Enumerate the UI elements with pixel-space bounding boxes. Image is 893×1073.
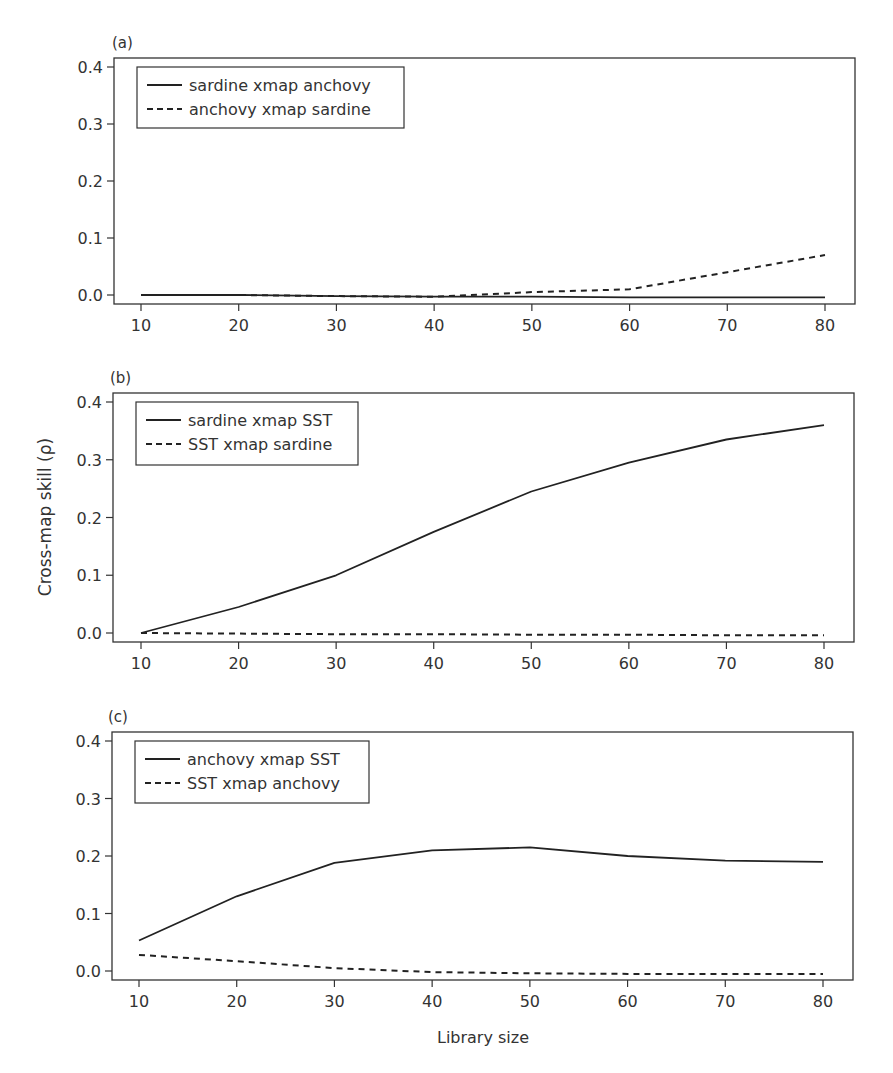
y-tick-label: 0.0: [78, 286, 103, 305]
y-tick-label: 0.1: [76, 905, 101, 924]
panel-a: (a)0.00.10.20.30.41020304050607080sardin…: [78, 34, 855, 335]
x-tick-label: 20: [229, 316, 249, 335]
x-axis-label: Library size: [437, 1028, 529, 1047]
x-tick-label: 80: [813, 992, 833, 1011]
y-tick-label: 0.3: [77, 451, 102, 470]
panel-b: (b)0.00.10.20.30.41020304050607080sardin…: [77, 369, 854, 673]
panel-c: (c)0.00.10.20.30.41020304050607080anchov…: [76, 708, 853, 1011]
y-tick-label: 0.4: [76, 732, 101, 751]
x-tick-label: 80: [814, 654, 834, 673]
y-axis-label: Cross-map skill (ρ): [35, 438, 55, 596]
series-line-dashed: [141, 255, 825, 297]
y-tick-label: 0.2: [76, 847, 101, 866]
y-tick-label: 0.4: [77, 393, 102, 412]
legend-label: SST xmap sardine: [188, 435, 332, 454]
panel-label: (c): [108, 708, 128, 726]
x-tick-label: 70: [716, 654, 736, 673]
legend-label: sardine xmap SST: [188, 411, 333, 430]
x-tick-label: 30: [326, 316, 346, 335]
x-tick-label: 40: [424, 316, 444, 335]
y-tick-label: 0.3: [78, 115, 103, 134]
x-tick-label: 60: [619, 654, 639, 673]
legend-label: anchovy xmap sardine: [189, 100, 371, 119]
x-tick-label: 60: [617, 992, 637, 1011]
x-tick-label: 60: [619, 316, 639, 335]
x-tick-label: 30: [326, 654, 346, 673]
panel-label: (b): [110, 369, 131, 387]
y-tick-label: 0.1: [77, 566, 102, 585]
y-tick-label: 0.0: [77, 624, 102, 643]
legend: anchovy xmap SSTSST xmap anchovy: [135, 741, 369, 803]
y-tick-label: 0.2: [77, 509, 102, 528]
series-line-solid: [139, 847, 823, 940]
y-tick-label: 0.2: [78, 172, 103, 191]
x-tick-label: 30: [324, 992, 344, 1011]
legend-label: sardine xmap anchovy: [189, 76, 371, 95]
y-tick-label: 0.0: [76, 962, 101, 981]
legend: sardine xmap anchovyanchovy xmap sardine: [137, 67, 404, 128]
x-tick-label: 70: [717, 316, 737, 335]
x-tick-label: 10: [131, 654, 151, 673]
series-line-dashed: [139, 955, 823, 974]
figure: (a)0.00.10.20.30.41020304050607080sardin…: [0, 0, 893, 1073]
y-tick-label: 0.3: [76, 790, 101, 809]
x-tick-label: 50: [522, 316, 542, 335]
panels: (a)0.00.10.20.30.41020304050607080sardin…: [76, 34, 855, 1011]
panel-label: (a): [112, 34, 133, 52]
x-tick-label: 70: [715, 992, 735, 1011]
x-tick-label: 10: [131, 316, 151, 335]
legend-label: anchovy xmap SST: [187, 750, 340, 769]
x-tick-label: 10: [129, 992, 149, 1011]
x-tick-label: 80: [815, 316, 835, 335]
x-tick-label: 20: [227, 992, 247, 1011]
legend: sardine xmap SSTSST xmap sardine: [136, 402, 358, 465]
series-line-dashed: [141, 633, 824, 635]
legend-label: SST xmap anchovy: [187, 774, 340, 793]
x-tick-label: 40: [422, 992, 442, 1011]
x-tick-label: 20: [228, 654, 248, 673]
y-tick-label: 0.1: [78, 229, 103, 248]
y-tick-label: 0.4: [78, 58, 103, 77]
x-tick-label: 50: [521, 654, 541, 673]
x-tick-label: 40: [424, 654, 444, 673]
x-tick-label: 50: [520, 992, 540, 1011]
